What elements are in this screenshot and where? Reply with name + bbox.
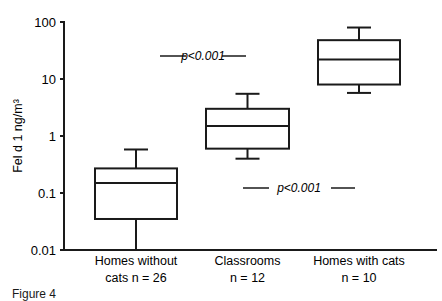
x-category-label: Homes with catsn = 10 — [313, 254, 405, 285]
significance-annotation: p<0.001 — [243, 181, 355, 195]
significance-annotation: p<0.001 — [160, 49, 246, 63]
y-tick-label: 0.01 — [31, 243, 56, 258]
svg-text:p<0.001: p<0.001 — [180, 49, 225, 63]
svg-text:cats n = 26: cats n = 26 — [105, 271, 167, 285]
y-tick-label: 100 — [34, 15, 56, 30]
x-category-label: Classroomsn = 12 — [215, 254, 281, 285]
box-3 — [318, 28, 400, 93]
figure-caption: Figure 4 — [12, 287, 56, 301]
box-2 — [206, 94, 289, 159]
x-category-label: Homes withoutcats n = 26 — [95, 254, 178, 285]
svg-text:Homes with cats: Homes with cats — [313, 254, 405, 268]
svg-text:Classrooms: Classrooms — [215, 254, 281, 268]
y-tick-label: 10 — [42, 72, 56, 87]
svg-text:p<0.001: p<0.001 — [276, 181, 321, 195]
svg-text:n = 12: n = 12 — [230, 271, 265, 285]
y-axis-label: Fel d 1 ng/m³ — [11, 99, 25, 173]
svg-text:Homes without: Homes without — [95, 254, 178, 268]
svg-text:n = 10: n = 10 — [341, 271, 376, 285]
y-tick-label: 0.1 — [38, 186, 56, 201]
box-1 — [95, 149, 177, 250]
y-tick-label: 1 — [49, 129, 56, 144]
